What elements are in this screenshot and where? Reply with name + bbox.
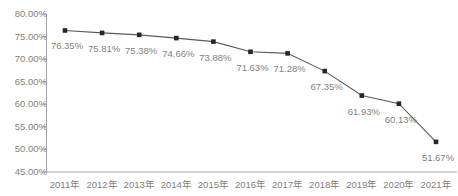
x-axis-tick-label: 2018年 bbox=[309, 180, 340, 190]
data-point-label: 71.28% bbox=[273, 64, 305, 74]
data-point-label: 51.67% bbox=[422, 153, 454, 163]
data-point-marker bbox=[248, 49, 253, 54]
x-axis-tick-label: 2015年 bbox=[198, 180, 229, 190]
x-axis-tick-label: 2020年 bbox=[383, 180, 414, 190]
data-point-label: 74.66% bbox=[162, 49, 194, 59]
y-axis-tick-label: 75.00% bbox=[15, 32, 47, 42]
data-point-marker bbox=[285, 51, 290, 56]
data-point-label: 61.93% bbox=[348, 107, 380, 117]
x-axis-tick-label: 2016年 bbox=[235, 180, 266, 190]
data-point-label: 75.38% bbox=[125, 46, 157, 56]
x-axis-tick-label: 2021年 bbox=[420, 180, 451, 190]
x-axis-tick-label: 2013年 bbox=[124, 180, 155, 190]
data-point-marker bbox=[137, 33, 142, 38]
data-point-marker bbox=[397, 101, 402, 106]
axis-line bbox=[47, 14, 458, 172]
y-axis-tick-label: 60.00% bbox=[15, 100, 47, 110]
y-axis-tick-label: 50.00% bbox=[15, 145, 47, 155]
data-point-label: 75.81% bbox=[88, 44, 120, 54]
data-point-marker bbox=[100, 31, 105, 36]
data-point-marker bbox=[434, 140, 439, 145]
y-axis-tick-label: 80.00% bbox=[15, 9, 47, 19]
y-axis-tick-label: 70.00% bbox=[15, 54, 47, 64]
line-chart: 80.00%75.00%70.00%65.00%60.00%55.00%50.0… bbox=[0, 0, 458, 196]
data-point-marker bbox=[63, 28, 68, 33]
x-axis-tick-label: 2012年 bbox=[87, 180, 118, 190]
series-line bbox=[65, 30, 436, 141]
x-axis-tick-label: 2014年 bbox=[161, 180, 192, 190]
plot-area bbox=[0, 0, 458, 196]
y-axis-tick-label: 65.00% bbox=[15, 77, 47, 87]
y-axis-tick-label: 55.00% bbox=[15, 122, 47, 132]
x-axis-tick-label: 2011年 bbox=[50, 180, 80, 190]
data-point-marker bbox=[360, 93, 365, 98]
x-axis-tick-label: 2019年 bbox=[346, 180, 377, 190]
data-point-marker bbox=[174, 36, 179, 41]
x-axis-tick-label: 2017年 bbox=[272, 180, 303, 190]
data-point-label: 76.35% bbox=[51, 41, 83, 51]
data-point-marker bbox=[322, 69, 327, 74]
y-axis-tick-label: 45.00% bbox=[15, 167, 47, 177]
data-point-marker bbox=[211, 39, 216, 44]
axis-lines bbox=[47, 14, 458, 172]
data-point-label: 73.88% bbox=[199, 53, 231, 63]
data-point-label: 60.13% bbox=[385, 115, 417, 125]
data-point-label: 67.35% bbox=[311, 82, 343, 92]
data-point-label: 71.63% bbox=[236, 63, 268, 73]
